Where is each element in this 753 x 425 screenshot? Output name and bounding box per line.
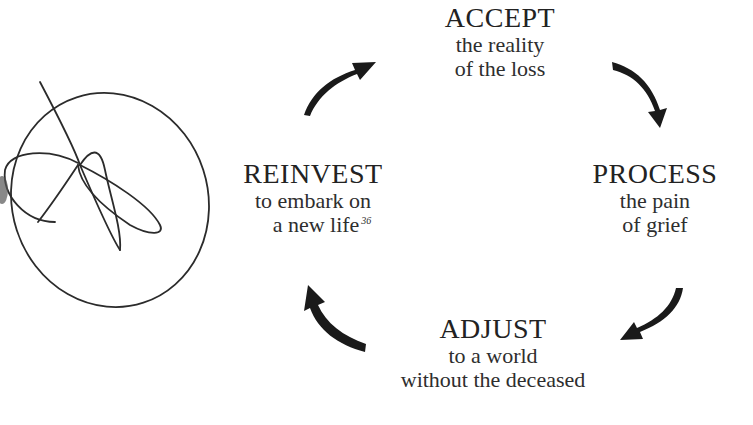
- node-adjust-title: ADJUST: [358, 315, 628, 343]
- node-adjust: ADJUST to a world without the deceased: [358, 315, 628, 391]
- node-reinvest-title: REINVEST: [228, 160, 398, 188]
- node-reinvest-line-2: a new life: [273, 212, 360, 237]
- arrow-process-to-adjust: [620, 288, 683, 340]
- node-accept-line-1: the reality: [420, 34, 580, 56]
- node-adjust-line-2: without the deceased: [358, 369, 628, 391]
- node-reinvest-line-2-wrap: a new life36: [228, 214, 398, 236]
- node-reinvest: REINVEST to embark on a new life36: [228, 160, 398, 236]
- node-accept-title: ACCEPT: [420, 4, 580, 32]
- node-process-title: PROCESS: [580, 160, 730, 188]
- node-accept: ACCEPT the reality of the loss: [420, 4, 580, 80]
- node-process-line-1: the pain: [580, 190, 730, 212]
- arrow-accept-to-process: [612, 62, 667, 128]
- arrow-reinvest-to-accept: [304, 62, 376, 116]
- node-adjust-line-1: to a world: [358, 345, 628, 367]
- node-process: PROCESS the pain of grief: [580, 160, 730, 236]
- footnote-marker: 36: [361, 215, 371, 226]
- node-accept-line-2: of the loss: [420, 58, 580, 80]
- node-process-line-2: of grief: [580, 214, 730, 236]
- node-reinvest-line-1: to embark on: [228, 190, 398, 212]
- arrow-adjust-to-reinvest: [304, 285, 366, 352]
